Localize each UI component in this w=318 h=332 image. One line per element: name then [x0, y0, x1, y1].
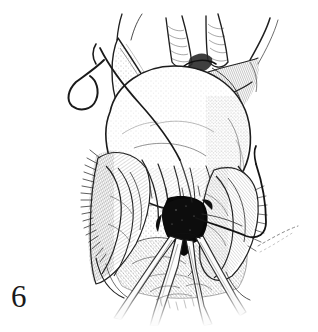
figure-number-label: 6 [11, 281, 27, 312]
figure-panel: 6 [0, 0, 318, 332]
surgical-illustration [0, 0, 318, 332]
